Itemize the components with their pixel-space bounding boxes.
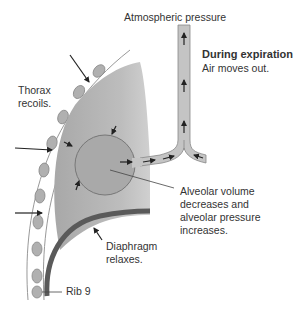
alveolus [75,135,135,195]
diaphragm-label-line1: Diaphragm [106,240,157,253]
diagram-title: During expiration [202,48,293,61]
diagram-subtitle: Air moves out. [202,62,269,75]
rib-9 [32,286,42,298]
thorax-label-line1: Thorax [18,84,51,97]
expiration-diagram: Atmospheric pressure During expiration A… [0,0,303,314]
airway [140,25,206,166]
alveolar-label-line1: Alveolar volume [180,185,255,198]
alveolar-label-line4: increases. [180,224,228,237]
thorax-label-line2: recoils. [18,97,51,110]
alveolar-label-line3: alveolar pressure [180,211,261,224]
diaphragm-label-line2: relaxes. [106,253,143,266]
atmospheric-pressure-label: Atmospheric pressure [124,11,226,24]
rib-9-label: Rib 9 [66,285,91,298]
alveolar-label-line2: decreases and [180,198,249,211]
